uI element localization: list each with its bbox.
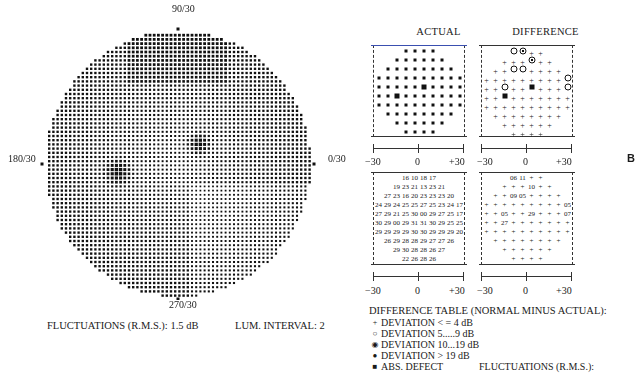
- legend-title: DIFFERENCE TABLE (NORMAL MINUS ACTUAL):: [369, 305, 607, 316]
- label-0: 0/30: [328, 154, 346, 164]
- tick-label: −30: [365, 285, 381, 296]
- grid-symbol: [413, 130, 416, 133]
- grid-symbol: [422, 67, 425, 70]
- grid-symbol: [440, 85, 443, 88]
- grid-value: 20: [444, 192, 457, 200]
- grid-symbol: +: [547, 114, 552, 132]
- grid-value: 21: [435, 183, 448, 191]
- legend-item: ●DEVIATION > 19 dB: [369, 350, 607, 361]
- grid-symbol: [404, 49, 407, 52]
- grid-symbol: [449, 67, 452, 70]
- grid-symbol: +: [511, 123, 516, 141]
- grid-symbol: [395, 76, 398, 79]
- legend-item: ○DEVIATION 5.....9 dB: [369, 328, 607, 339]
- fluctuations-text: FLUCTUATIONS (R.M.S.): 1.5 dB: [47, 321, 198, 331]
- grid-symbol: [431, 49, 434, 52]
- legend-item: ◉DEVIATION 10...19 dB: [369, 339, 607, 350]
- grid-symbol: [413, 58, 416, 61]
- grid-symbol: [386, 103, 389, 106]
- grid-symbol: [386, 67, 389, 70]
- grid-symbol: [458, 76, 461, 79]
- actual-values-panel: 1610181719232113232127231620232323202429…: [373, 172, 465, 265]
- visual-field-canvas: [0, 0, 360, 300]
- grid-symbol: [404, 130, 407, 133]
- grid-value: 07: [561, 210, 574, 218]
- grid-symbol: [431, 121, 434, 124]
- grid-symbol: [440, 76, 443, 79]
- grid-value: 27: [435, 246, 448, 254]
- legend-fluctuations: FLUCTUATIONS (R.M.S.):: [479, 361, 594, 372]
- grid-symbol: [440, 112, 443, 115]
- grid-symbol: [449, 94, 452, 97]
- grid-value: 17: [426, 174, 439, 182]
- grid-symbol: [440, 121, 443, 124]
- tick-label: −30: [365, 156, 381, 167]
- grid-symbol: [440, 94, 443, 97]
- grid-value: +: [543, 183, 556, 191]
- grid-symbol: [413, 67, 416, 70]
- grid-symbol: [431, 58, 434, 61]
- grid-value: +: [561, 219, 574, 227]
- grid-value: 25: [453, 219, 466, 227]
- tick-label: 0: [415, 285, 420, 296]
- grid-symbol: [458, 85, 461, 88]
- difference-title: DIFFERENCE: [478, 26, 613, 37]
- grid-symbol: [431, 85, 434, 88]
- grid-symbol: [413, 49, 416, 52]
- plus-icon: +: [369, 317, 381, 328]
- grid-symbol: [377, 85, 380, 88]
- grid-symbol: [431, 103, 434, 106]
- tick-label: −30: [477, 156, 493, 167]
- grid-symbol: [440, 67, 443, 70]
- grid-symbol: [386, 94, 389, 97]
- grid-symbol: [413, 85, 416, 88]
- figure-label: B: [627, 152, 635, 164]
- grid-symbol: [422, 76, 425, 79]
- grid-symbol: [422, 94, 425, 97]
- grid-symbol: +: [556, 105, 561, 123]
- tick-label: 0: [415, 156, 420, 167]
- tick-label: +30: [556, 285, 572, 296]
- grid-symbol: [440, 58, 443, 61]
- grid-symbol: [413, 103, 416, 106]
- label-180: 180/30: [8, 154, 36, 164]
- grid-symbol: +: [529, 123, 534, 141]
- grid-symbol: [394, 93, 399, 98]
- grid-symbol: [422, 130, 425, 133]
- grid-value: 05: [561, 201, 574, 209]
- tick-label: 0: [523, 156, 528, 167]
- label-90: 90/30: [172, 4, 195, 14]
- grid-symbol: [422, 103, 425, 106]
- grid-symbol: [377, 103, 380, 106]
- grid-value: 26: [444, 237, 457, 245]
- grid-symbol: [431, 67, 434, 70]
- grid-symbol: [404, 112, 407, 115]
- grid-symbol: [377, 94, 380, 97]
- grid-symbol: [431, 112, 434, 115]
- difference-values-panel: 0611+++++10++++0905+++++++++++++05++05++…: [481, 172, 573, 265]
- actual-symbol-panel: [373, 45, 465, 137]
- difference-top-axis: [481, 143, 572, 153]
- grid-symbol: [422, 121, 425, 124]
- grid-symbol: [449, 85, 452, 88]
- grid-symbol: [395, 67, 398, 70]
- actual-top-axis: [373, 143, 464, 153]
- filled-square-icon: ■: [369, 361, 381, 372]
- grid-symbol: [458, 103, 461, 106]
- grid-symbol: [440, 103, 443, 106]
- grid-symbol: [404, 67, 407, 70]
- grid-symbol: [395, 121, 398, 124]
- grid-value: 17: [453, 210, 466, 218]
- dotted-circle-icon: ◉: [369, 339, 381, 350]
- grid-symbol: +: [502, 114, 507, 132]
- grid-symbol: +: [565, 96, 570, 114]
- grid-value: +: [552, 237, 565, 245]
- grid-symbol: [377, 76, 380, 79]
- grid-symbol: [404, 121, 407, 124]
- grid-symbol: [395, 58, 398, 61]
- tick-label: +30: [449, 285, 465, 296]
- grid-value: +: [561, 228, 574, 236]
- grid-symbol: [431, 130, 434, 133]
- tick-label: 0: [523, 285, 528, 296]
- label-270: 270/30: [169, 300, 197, 310]
